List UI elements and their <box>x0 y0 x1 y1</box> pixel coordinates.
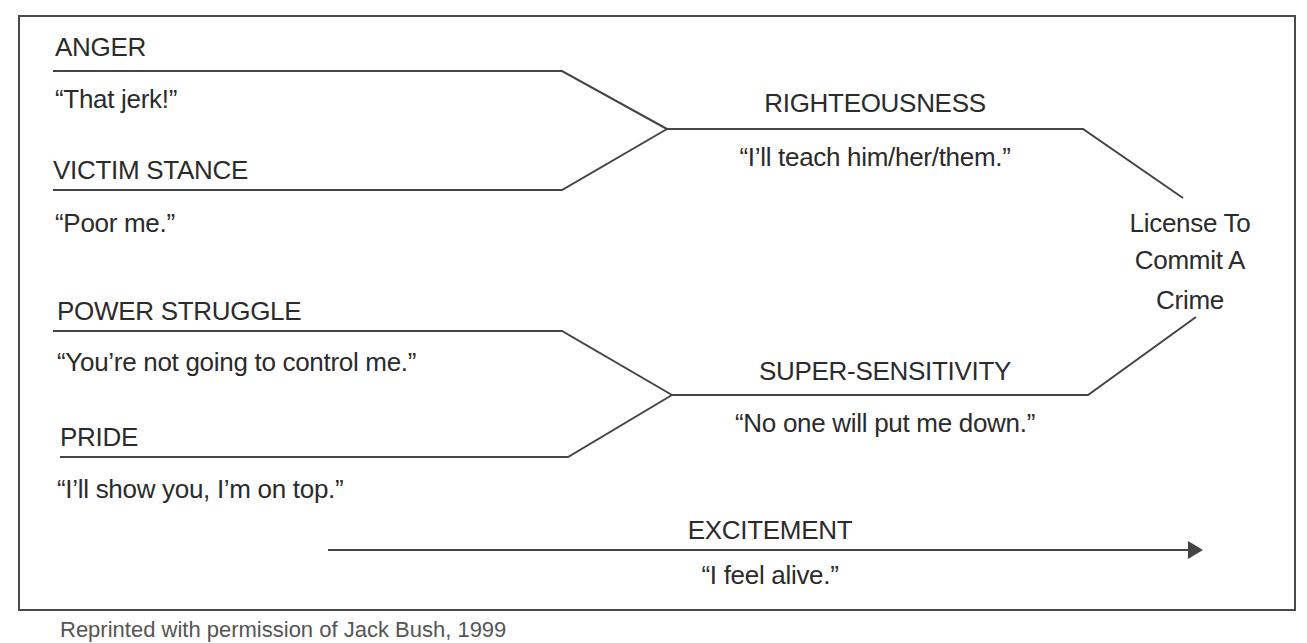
label-power-struggle: POWER STRUGGLE <box>57 298 301 324</box>
label-righteousness: RIGHTEOUSNESS <box>700 90 1050 116</box>
quote-pride: “I’ll show you, I’m on top.” <box>57 476 343 502</box>
figure-caption: Reprinted with permission of Jack Bush, … <box>60 617 506 643</box>
outcome-line-3: Crime <box>1110 287 1270 313</box>
label-anger: ANGER <box>55 34 146 60</box>
arrow-head-icon <box>1188 541 1203 559</box>
label-super-sensitivity: SUPER-SENSITIVITY <box>700 358 1070 384</box>
quote-excitement: “I feel alive.” <box>620 562 920 588</box>
label-pride: PRIDE <box>60 424 138 450</box>
label-excitement: EXCITEMENT <box>620 517 920 543</box>
outcome-line-1: License To <box>1110 210 1270 236</box>
quote-anger: “That jerk!” <box>55 86 177 112</box>
quote-super-sensitivity: “No one will put me down.” <box>680 410 1090 436</box>
quote-victim-stance: “Poor me.” <box>55 210 175 236</box>
quote-power-struggle: “You’re not going to control me.” <box>57 349 416 375</box>
outcome-line-2: Commit A <box>1110 247 1270 273</box>
quote-righteousness: “I’ll teach him/her/them.” <box>680 144 1070 170</box>
label-victim-stance: VICTIM STANCE <box>53 157 248 183</box>
